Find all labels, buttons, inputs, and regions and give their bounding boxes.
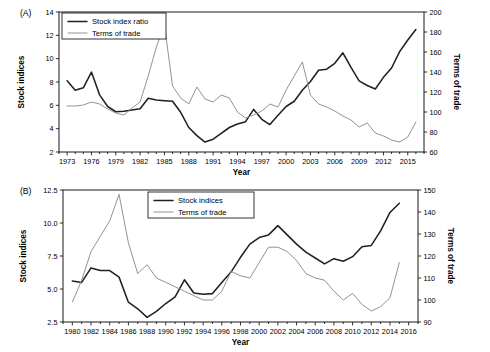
- y-tick-label-right: 180: [430, 28, 442, 37]
- series-line-1: [72, 203, 399, 317]
- y-tick-label-right: 200: [430, 8, 442, 17]
- x-tick-label: 2012: [375, 157, 391, 166]
- y-tick-label-left: 6: [49, 101, 53, 110]
- y-axis-title-left: Stock indices: [19, 229, 28, 282]
- x-tick-label: 2010: [344, 327, 360, 336]
- y-tick-label-left: 14: [45, 8, 53, 17]
- y-axis-title-left: Stock indices: [17, 55, 26, 108]
- y-tick-label-right: 150: [424, 186, 436, 195]
- y-tick-label-left: 7.5: [47, 252, 57, 261]
- x-tick-label: 1998: [232, 327, 248, 336]
- chart-legend: Stock indicesTerms of trade: [148, 192, 254, 218]
- y-tick-label-left: 5.0: [47, 285, 57, 294]
- x-tick-label: 1986: [120, 327, 136, 336]
- y-tick-label-left: 10.0: [43, 219, 57, 228]
- x-tick-label: 1982: [132, 157, 148, 166]
- x-tick-label: 1976: [83, 157, 99, 166]
- y-tick-label-left: 2.5: [47, 318, 57, 327]
- y-axis-right: 90100110120130140150: [418, 186, 436, 327]
- chart-panel-b: 2.55.07.510.012.590100110120130140150198…: [0, 176, 490, 352]
- legend-label-2: Terms of trade: [178, 208, 227, 217]
- y-axis-right: 6080100120140160180200: [424, 8, 442, 157]
- y-tick-label-right: 110: [424, 274, 436, 283]
- y-tick-label-right: 140: [424, 208, 436, 217]
- x-tick-label: 2016: [401, 327, 417, 336]
- y-tick-label-right: 120: [430, 88, 442, 97]
- x-tick-label: 1990: [158, 327, 174, 336]
- y-tick-label-right: 120: [424, 252, 436, 261]
- x-tick-label: 1979: [108, 157, 124, 166]
- y-tick-label-left: 8: [49, 78, 53, 87]
- y-tick-label-right: 90: [424, 318, 432, 327]
- x-tick-label: 1988: [181, 157, 197, 166]
- x-tick-label: 2006: [307, 327, 323, 336]
- panel-label: (B): [20, 186, 32, 196]
- y-tick-label-left: 4: [49, 124, 53, 133]
- x-tick-label: 2000: [278, 157, 294, 166]
- legend-label-2: Terms of trade: [92, 29, 141, 38]
- x-tick-label: 2006: [327, 157, 343, 166]
- y-tick-label-left: 12: [45, 31, 53, 40]
- x-tick-label: 1997: [254, 157, 270, 166]
- x-tick-label: 1985: [156, 157, 172, 166]
- y-tick-label-right: 60: [430, 148, 438, 157]
- chart-legend: Stock index ratioTerms of trade: [62, 13, 166, 39]
- x-tick-label: 2015: [400, 157, 416, 166]
- y-tick-label-right: 160: [430, 48, 442, 57]
- y-axis-left: 2.55.07.510.012.5: [43, 186, 63, 327]
- legend-label-1: Stock indices: [178, 196, 223, 205]
- y-axis-title-right: Terms of trade: [446, 228, 455, 285]
- x-tick-label: 1996: [214, 327, 230, 336]
- x-tick-label: 1994: [195, 327, 211, 336]
- y-axis-title-right: Terms of trade: [452, 54, 461, 111]
- y-tick-label-right: 100: [430, 108, 442, 117]
- x-tick-label: 2004: [288, 327, 304, 336]
- x-tick-label: 2012: [363, 327, 379, 336]
- y-tick-label-right: 140: [430, 68, 442, 77]
- x-tick-label: 2000: [251, 327, 267, 336]
- y-tick-label-right: 100: [424, 296, 436, 305]
- x-axis-title: Year: [232, 338, 250, 347]
- y-tick-label-right: 80: [430, 128, 438, 137]
- x-tick-label: 2009: [351, 157, 367, 166]
- x-tick-label: 2003: [302, 157, 318, 166]
- x-tick-label: 2014: [382, 327, 398, 336]
- chart-panel-a: 2468101214608010012014016018020019731976…: [0, 0, 490, 176]
- x-tick-label: 1982: [83, 327, 99, 336]
- y-tick-label-left: 12.5: [43, 186, 57, 195]
- y-tick-label-right: 130: [424, 230, 436, 239]
- x-tick-label: 1991: [205, 157, 221, 166]
- x-tick-label: 1992: [176, 327, 192, 336]
- x-tick-label: 1980: [64, 327, 80, 336]
- x-axis-title: Year: [233, 168, 251, 177]
- panel-label: (A): [20, 8, 32, 18]
- x-tick-label: 2002: [270, 327, 286, 336]
- y-tick-label-left: 2: [49, 148, 53, 157]
- x-tick-label: 1994: [229, 157, 245, 166]
- figure-two-panel-chart: 2468101214608010012014016018020019731976…: [0, 0, 490, 352]
- x-tick-label: 1988: [139, 327, 155, 336]
- x-axis: 1980198219841986198819901992199419961998…: [63, 322, 418, 336]
- x-tick-label: 1984: [102, 327, 118, 336]
- y-tick-label-left: 10: [45, 54, 53, 63]
- x-tick-label: 1973: [59, 157, 75, 166]
- x-axis: 1973197619791982198519881991199419972000…: [59, 152, 424, 166]
- legend-label-1: Stock index ratio: [92, 17, 148, 26]
- x-tick-label: 2008: [326, 327, 342, 336]
- y-axis-left: 2468101214: [45, 8, 59, 157]
